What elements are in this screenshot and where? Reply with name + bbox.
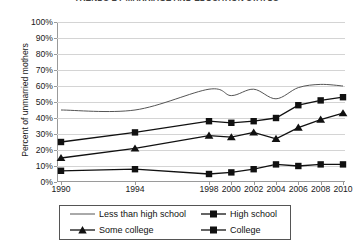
- legend-row-2: Some college College: [60, 222, 290, 238]
- series-lines: [57, 22, 345, 182]
- legend-swatch-square-marker: [200, 223, 227, 237]
- x-tick-label: 2008: [311, 185, 330, 194]
- data-point-marker: [206, 171, 212, 177]
- legend-swatch-line: [69, 207, 96, 221]
- data-point-marker: [317, 97, 323, 103]
- chart-legend: Less than high school High school Some c…: [59, 205, 291, 240]
- x-tick-label: 2006: [289, 185, 308, 194]
- x-tick-label: 1990: [51, 185, 70, 194]
- data-point-marker: [58, 168, 64, 174]
- x-tick-label: 2000: [222, 185, 241, 194]
- y-tick-label: 100%: [0, 18, 53, 27]
- y-tick-label: 70%: [0, 66, 53, 75]
- y-tick-mark: [54, 182, 57, 183]
- data-point-marker: [205, 132, 214, 139]
- data-point-marker: [295, 163, 301, 169]
- data-point-marker: [228, 120, 234, 126]
- x-tick-label: 2002: [244, 185, 263, 194]
- data-point-marker: [295, 102, 301, 108]
- data-point-marker: [273, 161, 279, 167]
- y-tick-label: 50%: [0, 98, 53, 107]
- y-tick-label: 40%: [0, 114, 53, 123]
- data-point-marker: [249, 128, 258, 135]
- legend-label: High school: [230, 210, 277, 219]
- y-tick-label: 0%: [0, 178, 53, 187]
- data-point-marker: [58, 139, 64, 145]
- y-tick-label: 60%: [0, 82, 53, 91]
- x-tick-label: 1994: [125, 185, 144, 194]
- chart-title: TRENDS BY MARRIAGE AND EDUCATION STATUS: [0, 0, 353, 3]
- series-high-school: [58, 94, 346, 145]
- legend-item-college[interactable]: College: [200, 222, 261, 238]
- y-tick-label: 20%: [0, 146, 53, 155]
- legend-row-1: Less than high school High school: [60, 206, 290, 222]
- legend-item-some-college[interactable]: Some college: [69, 222, 154, 238]
- legend-swatch-square-marker: [200, 207, 227, 221]
- y-tick-label: 90%: [0, 34, 53, 43]
- data-point-marker: [250, 166, 256, 172]
- legend-label: Some college: [99, 226, 154, 235]
- series-line: [61, 113, 343, 158]
- data-point-marker: [273, 115, 279, 121]
- data-point-marker: [228, 169, 234, 175]
- x-tick-label: 1998: [199, 185, 218, 194]
- data-point-marker: [340, 94, 346, 100]
- data-point-marker: [340, 161, 346, 167]
- legend-item-less-than-high-school[interactable]: Less than high school: [69, 206, 186, 222]
- x-tick-label: 2010: [333, 185, 352, 194]
- legend-swatch-triangle-marker: [69, 223, 96, 237]
- y-tick-label: 80%: [0, 50, 53, 59]
- y-tick-label: 10%: [0, 162, 53, 171]
- data-point-marker: [132, 166, 138, 172]
- legend-label: Less than high school: [99, 210, 186, 219]
- x-tick-label: 2004: [266, 185, 285, 194]
- data-point-marker: [206, 118, 212, 124]
- data-point-marker: [250, 118, 256, 124]
- plot-area: [57, 22, 345, 182]
- data-point-marker: [339, 109, 348, 116]
- legend-item-high-school[interactable]: High school: [200, 206, 277, 222]
- series-college: [58, 161, 346, 177]
- legend-label: College: [230, 226, 261, 235]
- chart-figure: TRENDS BY MARRIAGE AND EDUCATION STATUS …: [0, 0, 353, 246]
- series-some-college: [57, 109, 348, 161]
- x-axis-tick-labels: 199019941998200020022004200620082010: [57, 185, 345, 197]
- y-tick-label: 30%: [0, 130, 53, 139]
- data-point-marker: [317, 161, 323, 167]
- data-point-marker: [132, 129, 138, 135]
